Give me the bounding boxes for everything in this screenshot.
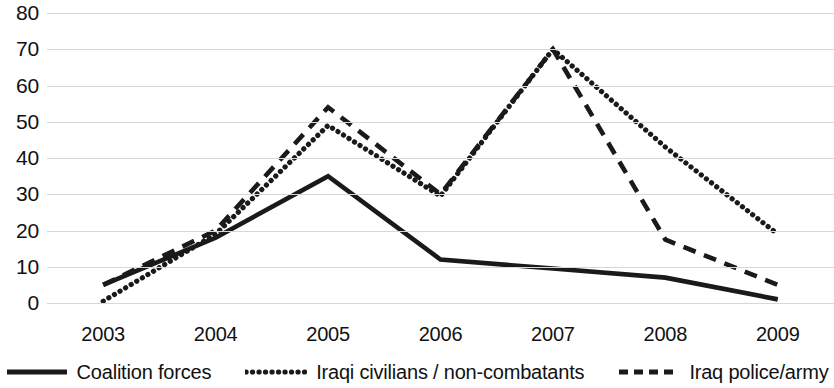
gridline <box>47 13 834 14</box>
legend-item-iraqi-civilians-non-combatants[interactable]: Iraqi civilians / non-combatants <box>245 361 584 383</box>
legend-item-coalition-forces[interactable]: Coalition forces <box>6 361 212 383</box>
legend-label-coalition-forces: Coalition forces <box>77 361 212 383</box>
x-axis-tick-label: 2009 <box>733 324 823 344</box>
y-axis-tick-label: 80 <box>0 2 39 23</box>
line-chart: 0102030405060708020032004200520062007200… <box>0 0 834 388</box>
legend-label-iraq-police-army: Iraq police/army <box>689 361 828 383</box>
x-axis-tick-label: 2005 <box>283 324 373 344</box>
y-axis-tick-label: 20 <box>0 220 39 241</box>
gridline <box>47 194 834 195</box>
series-line-iraqi-civilians-non-combatants <box>103 49 778 301</box>
y-axis-tick-label: 40 <box>0 147 39 168</box>
x-axis-tick-label: 2008 <box>620 324 710 344</box>
x-axis-tick-label: 2003 <box>58 324 148 344</box>
legend-swatch-iraqi-civilians-non-combatants <box>245 365 307 379</box>
x-axis-tick-label: 2007 <box>508 324 598 344</box>
legend-swatch-iraq-police-army <box>618 365 680 379</box>
x-axis-tick-label: 2004 <box>171 324 261 344</box>
gridline <box>47 122 834 123</box>
gridline <box>47 86 834 87</box>
y-axis-tick-label: 10 <box>0 256 39 277</box>
gridline <box>47 303 834 304</box>
x-axis-tick-label: 2006 <box>396 324 486 344</box>
gridline <box>47 158 834 159</box>
legend-swatch-coalition-forces <box>6 365 68 379</box>
gridline <box>47 231 834 232</box>
legend: Coalition forcesIraqi civilians / non-co… <box>0 355 834 388</box>
gridline <box>47 49 834 50</box>
legend-label-iraqi-civilians-non-combatants: Iraqi civilians / non-combatants <box>316 361 584 383</box>
y-axis-tick-label: 0 <box>0 292 39 313</box>
gridline <box>47 267 834 268</box>
y-axis-tick-label: 60 <box>0 75 39 96</box>
y-axis-tick-label: 50 <box>0 111 39 132</box>
y-axis-tick-label: 30 <box>0 183 39 204</box>
legend-item-iraq-police-army[interactable]: Iraq police/army <box>618 361 828 383</box>
y-axis-tick-label: 70 <box>0 38 39 59</box>
plot-area: 0102030405060708020032004200520062007200… <box>47 13 834 303</box>
